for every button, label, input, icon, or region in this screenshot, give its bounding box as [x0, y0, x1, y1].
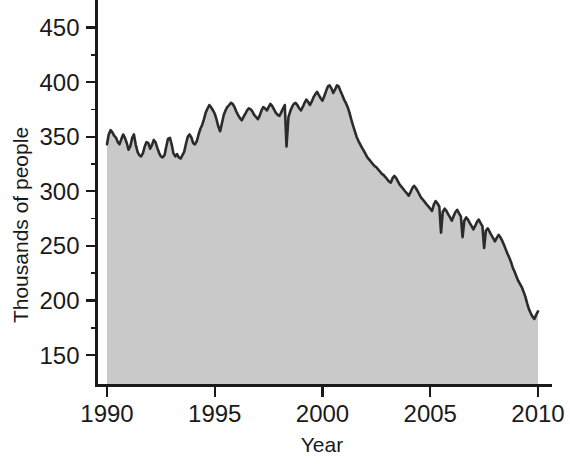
x-axis-title: Year [301, 433, 343, 456]
x-tick-label: 1990 [80, 400, 133, 427]
y-tick-label: 200 [39, 287, 79, 314]
x-tick-label: 2010 [511, 400, 564, 427]
y-tick-label: 300 [39, 178, 79, 205]
y-tick-label: 400 [39, 69, 79, 96]
area-chart: 150200250300350400450 199019952000200520… [0, 0, 570, 465]
y-tick-label: 250 [39, 232, 79, 259]
x-tick-label: 2005 [404, 400, 457, 427]
y-tick-label: 150 [39, 342, 79, 369]
y-tick-label: 350 [39, 123, 79, 150]
y-axis-title: Thousands of people [9, 127, 32, 323]
y-tick-label: 450 [39, 14, 79, 41]
chart-figure: 150200250300350400450 199019952000200520… [0, 0, 570, 465]
x-tick-label: 2000 [296, 400, 349, 427]
x-tick-label: 1995 [188, 400, 241, 427]
